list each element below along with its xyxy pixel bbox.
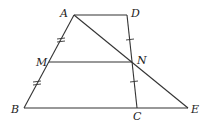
label-b: B xyxy=(10,103,19,116)
tick-dn xyxy=(126,39,134,40)
label-c: C xyxy=(133,110,142,123)
geometry-diagram: A D M N B C E xyxy=(0,0,212,125)
label-n: N xyxy=(136,54,147,67)
label-e: E xyxy=(190,103,199,116)
tick-nc xyxy=(130,81,138,82)
label-m: M xyxy=(35,56,48,69)
label-d: D xyxy=(130,7,140,20)
label-a: A xyxy=(59,7,68,20)
